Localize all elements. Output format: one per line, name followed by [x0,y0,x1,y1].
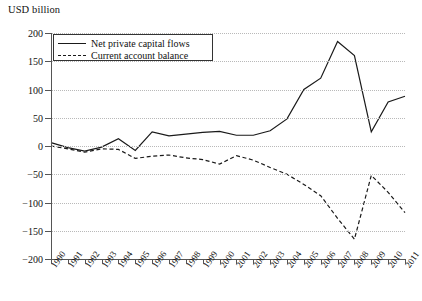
x-axis-tick [135,259,136,264]
x-axis-tick [152,259,153,264]
x-axis-tick [236,259,237,264]
gridline [51,146,405,147]
x-axis-tick [304,259,305,264]
gridline [51,203,405,204]
y-axis-tick-label: −150 [22,225,43,236]
y-axis-tick [45,118,51,119]
x-axis-tick [102,259,103,264]
x-axis-tick [203,259,204,264]
legend-item-current-account-balance: Current account balance [58,49,208,61]
x-axis-tick [68,259,69,264]
y-axis-tick-labels: 200150100500−50−100−150−200 [0,0,43,301]
x-axis-tick [388,259,389,264]
y-axis-tick [45,90,51,91]
x-axis-tick [287,259,288,264]
y-axis-tick [45,231,51,232]
y-axis-tick [45,174,51,175]
gridline [51,61,405,62]
chart-legend: Net private capital flows Current accoun… [53,34,213,61]
x-axis-tick [354,259,355,264]
gridline [51,118,405,119]
y-axis-tick [45,146,51,147]
x-axis-tick [85,259,86,264]
x-axis-tick [338,259,339,264]
y-axis-tick [45,203,51,204]
y-axis-tick-label: 150 [28,56,43,67]
y-axis-tick-label: 100 [28,84,43,95]
x-axis-tick [220,259,221,264]
y-axis-tick [45,61,51,62]
x-axis-tick [169,259,170,264]
y-axis-tick-label: −50 [27,169,43,180]
legend-label: Current account balance [91,50,188,61]
series-line-current-account-balance [51,146,405,239]
x-axis-tick [321,259,322,264]
y-axis-tick-label: −100 [22,197,43,208]
gridline [51,90,405,91]
y-axis-tick-label: 50 [33,112,43,123]
x-axis-tick [118,259,119,264]
y-axis-tick-label: −200 [22,254,43,265]
gridline [51,174,405,175]
y-axis-tick-label: 0 [38,141,43,152]
legend-item-net-private-capital-flows: Net private capital flows [58,37,208,49]
plot-area [51,33,405,259]
x-axis-tick [270,259,271,264]
x-axis-tick [51,259,52,264]
x-axis-tick [405,259,406,264]
x-axis-tick [253,259,254,264]
x-axis-tick [186,259,187,264]
legend-label: Net private capital flows [91,38,190,49]
y-axis-line [51,33,52,259]
y-axis-tick-label: 200 [28,28,43,39]
legend-swatch-dashed-line-icon [58,55,86,56]
chart-figure: USD billion 200150100500−50−100−150−200 … [0,0,422,301]
legend-swatch-solid-line-icon [58,43,86,44]
x-axis-tick [371,259,372,264]
gridline [51,231,405,232]
y-axis-tick [45,33,51,34]
